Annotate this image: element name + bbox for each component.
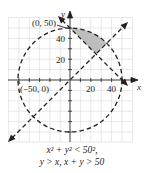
y-tick-label-20: 20 [56,55,66,65]
y-tick-label-40: 40 [56,34,66,44]
y-axis-label: y [60,9,65,19]
caption-line-1: x² + y² < 50², [0,145,144,156]
x-tick-label-20: 20 [86,84,96,94]
x-axis-label: x [136,82,141,92]
point-label-top: (0, 50) [32,18,56,28]
point-label-left: (−50, 0) [20,84,49,94]
x-tick-label-40: 40 [107,84,117,94]
line-y-equals-x [8,22,128,142]
caption-line-2: y > x, x + y > 50 [0,157,144,168]
leader-arrow-top [57,25,66,28]
